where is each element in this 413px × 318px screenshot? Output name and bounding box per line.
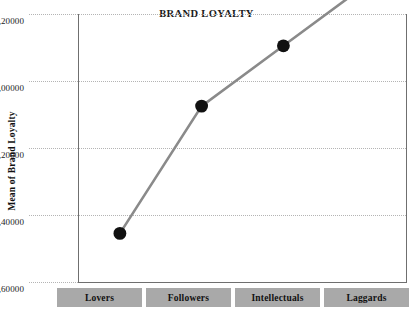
gridline: −0,40000 xyxy=(29,215,406,216)
y-tick-label: 0,00000 xyxy=(0,83,24,93)
chart-root: BRAND LOYALTY Mean of Brand Loyalty 0,20… xyxy=(0,0,413,318)
data-point-marker[interactable] xyxy=(277,39,290,52)
category-label-intellectuals[interactable]: Intellectuals xyxy=(235,288,320,307)
category-label-lovers[interactable]: Lovers xyxy=(57,288,142,307)
y-axis-title: Mean of Brand Loyalty xyxy=(4,96,20,226)
y-axis-title-text: Mean of Brand Loyalty xyxy=(7,111,17,210)
data-point-marker[interactable] xyxy=(195,100,208,113)
axis-line-right xyxy=(406,14,407,282)
series-line xyxy=(120,0,365,233)
category-axis: LoversFollowersIntellectualsLaggards xyxy=(57,288,409,307)
y-tick-label: 0,20000 xyxy=(0,16,24,26)
category-label-laggards[interactable]: Laggards xyxy=(324,288,409,307)
axis-line-bottom xyxy=(78,282,407,283)
data-point-marker[interactable] xyxy=(114,227,127,240)
category-label-followers[interactable]: Followers xyxy=(146,288,231,307)
y-tick-label: −0,40000 xyxy=(0,217,24,227)
y-tick-label: −0,60000 xyxy=(0,284,24,294)
line-series xyxy=(79,14,379,164)
y-tick-label: −0,20000 xyxy=(0,150,24,160)
plot-area: 0,200000,00000−0,20000−0,40000−0,60000 xyxy=(79,14,406,282)
